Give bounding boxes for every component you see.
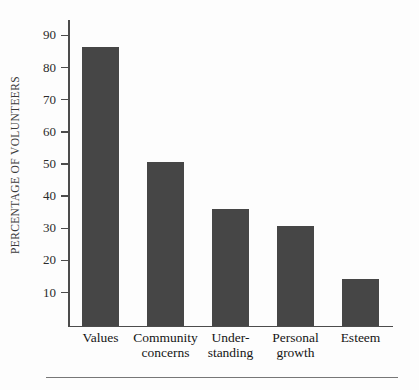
y-axis-title-label: PERCENTAGE OF VOLUNTEERS (9, 76, 21, 254)
y-axis-tick: 20 (61, 260, 68, 262)
category-label-line-1: Community (133, 330, 198, 345)
bar (212, 209, 249, 326)
bar-chart-figure: PERCENTAGE OF VOLUNTEERS 102030405060708… (0, 0, 419, 390)
y-axis-tick-label: 50 (43, 156, 56, 172)
bar (147, 162, 184, 326)
y-axis-tick-label: 70 (43, 92, 56, 108)
bar (82, 47, 119, 325)
category-label-line-1: Values (83, 330, 119, 345)
category-label-line-1: Personal (272, 330, 319, 345)
y-axis-tick-label: 60 (43, 124, 56, 140)
category-label-line-1: Esteem (341, 330, 381, 345)
x-axis-category-label: Esteem (322, 330, 399, 345)
y-axis-tick-label: 20 (43, 252, 56, 268)
y-axis-tick-label: 90 (43, 27, 56, 43)
bottom-divider-rule (46, 377, 398, 378)
category-label-line-2: growth (257, 345, 334, 360)
y-axis-tick: 40 (61, 195, 68, 197)
y-axis-tick-label: 30 (43, 220, 56, 236)
y-axis-line (68, 20, 70, 327)
x-axis-line (68, 326, 393, 328)
bar (342, 279, 379, 326)
y-axis-tick-label: 80 (43, 60, 56, 76)
y-axis-tick: 10 (61, 292, 68, 294)
category-label-line-1: Under- (212, 330, 250, 345)
y-axis-title: PERCENTAGE OF VOLUNTEERS (0, 0, 30, 330)
y-axis-tick: 30 (61, 228, 68, 230)
plot-area: 102030405060708090 ValuesCommunityconcer… (68, 20, 393, 327)
y-axis-tick: 90 (61, 35, 68, 37)
y-axis-tick: 50 (61, 163, 68, 165)
y-axis-tick: 60 (61, 131, 68, 133)
y-axis-tick-label: 40 (43, 188, 56, 204)
y-axis-tick: 80 (61, 67, 68, 69)
bar (277, 226, 314, 326)
y-axis-tick-label: 10 (43, 285, 56, 301)
y-axis-tick: 70 (61, 99, 68, 101)
